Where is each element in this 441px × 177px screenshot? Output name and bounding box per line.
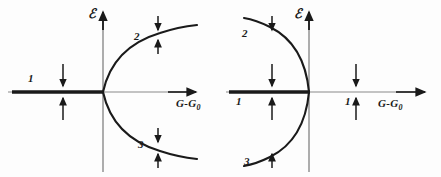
right-y-axis-label: ℰ bbox=[294, 6, 302, 22]
left-x-axis-label-sub: 0 bbox=[196, 103, 200, 112]
panel-subcritical: 2 3 1 1 ℰ G-G0 bbox=[220, 0, 441, 177]
right-x-axis-label: G-G0 bbox=[378, 97, 403, 112]
left-y-axis-label: ℰ bbox=[88, 6, 96, 22]
right-branch-label-1-left: 1 bbox=[236, 95, 242, 107]
left-x-axis-label-main: G-G bbox=[176, 97, 196, 109]
right-branch-label-3: 3 bbox=[244, 155, 250, 167]
left-branch-label-2: 2 bbox=[134, 30, 140, 42]
right-x-axis-label-sub: 0 bbox=[398, 103, 402, 112]
right-panel-canvas bbox=[220, 0, 441, 177]
right-branch-label-1-right: 1 bbox=[345, 95, 351, 107]
left-branch-label-1: 1 bbox=[28, 72, 34, 84]
right-branch-label-2: 2 bbox=[242, 27, 248, 39]
panel-supercritical: 1 2 3 ℰ G-G0 bbox=[0, 0, 220, 177]
left-x-axis-label: G-G0 bbox=[176, 97, 201, 112]
right-branch-2-upper bbox=[244, 18, 309, 92]
left-panel-canvas bbox=[0, 0, 220, 177]
right-branch-3-lower bbox=[244, 92, 309, 166]
left-branch-2-upper bbox=[103, 25, 197, 92]
left-branch-label-3: 3 bbox=[138, 138, 144, 150]
bifurcation-figure: 1 2 3 ℰ G-G0 bbox=[0, 0, 441, 177]
right-x-axis-label-main: G-G bbox=[378, 97, 398, 109]
